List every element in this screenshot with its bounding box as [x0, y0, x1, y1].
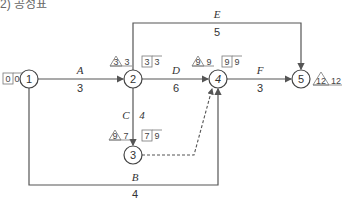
node-5-tri-val: 12	[331, 76, 341, 86]
node-1-label: 1	[26, 73, 32, 85]
node-1-box-a: 0	[5, 74, 10, 84]
node-1: 1 0 0	[3, 70, 38, 88]
activity-b-duration: 4	[132, 188, 138, 200]
node-3: 3 9 7 7 9	[109, 130, 162, 164]
node-3-box-a: 7	[144, 131, 149, 141]
activity-a-name: A	[76, 64, 84, 76]
node-4-label: 4	[215, 73, 221, 85]
node-2-box-a: 3	[144, 57, 149, 67]
activity-a-duration: 3	[77, 82, 83, 94]
node-5: 5 12 12	[292, 70, 342, 88]
activity-f-duration: 3	[257, 82, 263, 94]
activity-a: A 3	[38, 64, 123, 94]
node-3-box-b: 9	[154, 131, 159, 141]
node-1-box-b: 0	[14, 74, 19, 84]
node-3-tri-val: 7	[123, 131, 128, 141]
node-2: 2 3 3 3 3	[110, 56, 162, 88]
activity-d: D 6	[142, 64, 208, 94]
activity-f: F 3	[227, 64, 291, 94]
node-5-tri: 12	[316, 76, 326, 86]
node-5-label: 5	[298, 73, 304, 85]
activity-c-name: C	[122, 109, 130, 121]
node-3-tri: 9	[112, 131, 117, 141]
node-4: 4 9 9 9 9	[192, 56, 242, 88]
activity-f-name: F	[256, 64, 264, 76]
network-diagram: A 3 D 6 F 3 E 5 C 4 B 4 1 0 0	[0, 0, 351, 204]
activity-e-duration: 5	[214, 26, 220, 38]
node-3-label: 3	[130, 149, 136, 161]
activity-b: B 4	[29, 88, 218, 200]
node-2-tri-val: 3	[124, 57, 129, 67]
activity-d-name: D	[171, 64, 180, 76]
dummy-activity	[142, 89, 212, 155]
node-4-tri-val: 9	[206, 57, 211, 67]
activity-e-name: E	[213, 8, 221, 20]
node-4-box-b: 9	[234, 57, 239, 67]
node-2-tri: 3	[113, 57, 118, 67]
activity-c-duration: 4	[139, 109, 145, 121]
node-4-box-a: 9	[224, 57, 229, 67]
node-4-tri: 9	[195, 57, 200, 67]
node-2-box-b: 3	[154, 57, 159, 67]
activity-d-duration: 6	[173, 82, 179, 94]
activity-b-name: B	[132, 171, 139, 183]
node-2-label: 2	[130, 73, 136, 85]
